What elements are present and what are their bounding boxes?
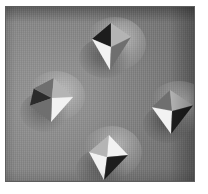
figure-panel	[0, 0, 208, 194]
micrograph-image	[5, 6, 195, 182]
pyramid-face-lit-right	[51, 97, 73, 122]
pyramid-body-right	[149, 88, 195, 136]
pyramid-top-svg	[86, 22, 136, 72]
pyramid-feature-top	[86, 22, 136, 72]
pyramid-body-bottom	[82, 132, 132, 182]
pyramid-bottom-svg	[82, 132, 132, 182]
pyramid-feature-right	[149, 88, 195, 136]
pyramid-body-top	[86, 22, 136, 72]
pyramid-feature-left	[27, 76, 75, 124]
pyramid-face-lower-right	[104, 155, 128, 180]
pyramid-face-lit-left	[152, 107, 172, 134]
pyramid-face-upper-right	[52, 78, 73, 98]
pyramid-feature-bottom	[82, 132, 132, 182]
pyramid-body-left	[27, 76, 75, 124]
pyramid-right-svg	[149, 88, 195, 136]
pyramid-left-svg	[27, 76, 75, 124]
pyramid-face-upper-right	[107, 135, 128, 157]
